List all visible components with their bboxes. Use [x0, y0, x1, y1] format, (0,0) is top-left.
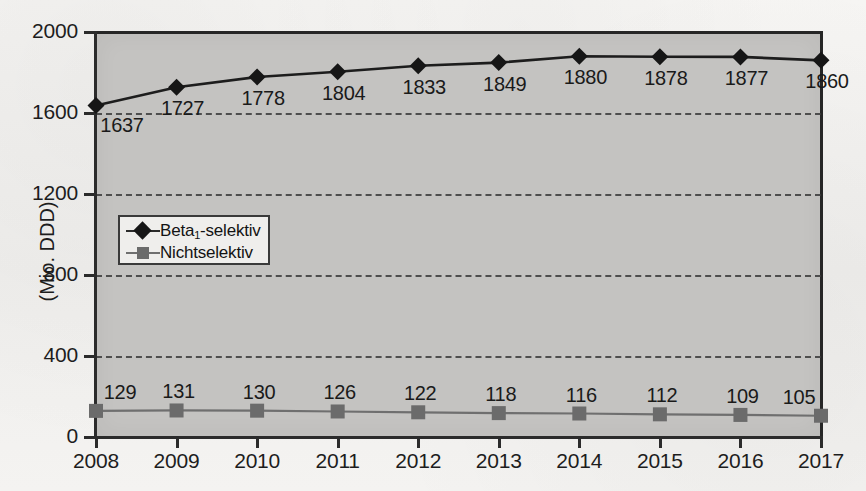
marker-series1-2010	[249, 68, 266, 85]
marker-series1-2017	[813, 52, 830, 69]
data-label-series2-2016: 109	[726, 385, 758, 408]
data-label-series1-2013: 1849	[483, 73, 526, 96]
data-label-series2-2008: 129	[104, 381, 136, 404]
data-label-series1-2012: 1833	[403, 76, 446, 99]
diamond-marker-icon	[126, 221, 160, 241]
marker-series2-2016	[733, 408, 747, 422]
marker-series2-2015	[653, 407, 667, 421]
marker-series2-2009	[170, 403, 184, 417]
legend-item-nichtselektiv: Nichtselektiv	[126, 242, 262, 264]
data-label-series2-2012: 122	[404, 382, 436, 405]
data-label-series1-2009: 1727	[161, 97, 204, 120]
data-label-series2-2009: 131	[162, 380, 194, 403]
marker-series2-2017	[814, 409, 828, 423]
marker-series1-2011	[329, 63, 346, 80]
series-line-2	[96, 410, 821, 415]
data-label-series1-2008: 1637	[100, 114, 143, 137]
marker-series2-2013	[492, 406, 506, 420]
marker-series1-2015	[651, 48, 668, 65]
data-label-series2-2013: 118	[485, 383, 516, 406]
marker-series1-2008	[88, 97, 105, 114]
legend-label-nichtselektiv: Nichtselektiv	[160, 243, 253, 263]
marker-series1-2016	[732, 48, 749, 65]
data-label-series2-2011: 126	[323, 381, 355, 404]
data-label-series2-2014: 116	[566, 384, 597, 407]
chart-page: 0400800120016002000 20082009201020112012…	[0, 0, 866, 491]
marker-series2-2008	[89, 404, 103, 418]
series-line-1	[96, 56, 821, 105]
marker-series2-2011	[331, 404, 345, 418]
data-label-series2-2017: 105	[783, 386, 815, 409]
marker-series1-2014	[571, 48, 588, 65]
data-label-series1-2015: 1878	[644, 67, 687, 90]
data-label-series1-2014: 1880	[564, 66, 607, 89]
data-label-series2-2010: 130	[243, 381, 275, 404]
marker-series2-2014	[572, 407, 586, 421]
marker-series1-2013	[490, 54, 507, 71]
data-label-series1-2016: 1877	[725, 67, 768, 90]
data-label-series1-2017: 1860	[805, 70, 848, 93]
legend-label-beta1-selektiv: Beta1-selektiv	[160, 221, 261, 241]
marker-series2-2010	[250, 404, 264, 418]
legend: Beta1-selektiv Nichtselektiv	[118, 215, 270, 265]
legend-item-beta1-selektiv: Beta1-selektiv	[126, 220, 262, 242]
data-label-series1-2010: 1778	[241, 87, 284, 110]
marker-series2-2012	[411, 405, 425, 419]
marker-series1-2012	[410, 57, 427, 74]
data-label-series2-2015: 112	[646, 384, 677, 407]
data-label-series1-2011: 1804	[322, 82, 365, 105]
square-marker-icon	[126, 243, 160, 263]
line-chart: 0400800120016002000 20082009201020112012…	[0, 0, 866, 491]
marker-series1-2009	[168, 79, 185, 96]
